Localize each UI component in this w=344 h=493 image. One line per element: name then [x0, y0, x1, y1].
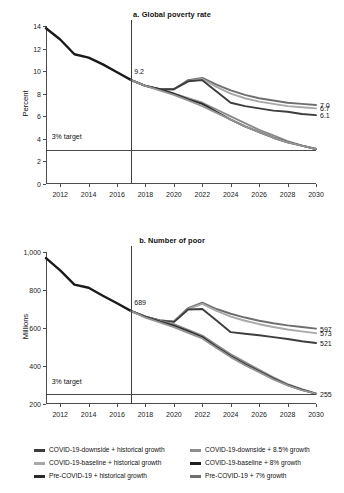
last-actual-value: 689 — [134, 299, 146, 306]
x-tick-label: 2026 — [251, 411, 267, 418]
x-tick-label: 2028 — [280, 191, 296, 198]
y-tick-label: 1,000 — [23, 249, 41, 256]
x-tick-label: 2018 — [138, 191, 154, 198]
chart-panel-global-poverty-rate: a. Global poverty rate Percent 024681012… — [0, 0, 344, 222]
y-tick-mark — [43, 328, 46, 329]
y-tick-mark — [43, 71, 46, 72]
legend-item[interactable]: Pre-COVID-19 + historical growth — [34, 470, 189, 483]
legend-color-swatch-icon — [190, 462, 201, 464]
legend-item[interactable]: COVID-19-baseline + 8% growth — [190, 457, 344, 470]
x-tick-mark — [259, 184, 260, 187]
x-tick-mark — [174, 184, 175, 187]
x-tick-mark — [316, 404, 317, 407]
y-tick-label: 4 — [37, 135, 41, 142]
x-tick-mark — [174, 404, 175, 407]
legend-item-label: COVID-19-downside + historical growth — [49, 447, 165, 454]
y-tick-label: 600 — [29, 325, 41, 332]
chart-legend: COVID-19-downside + historical growthCOV… — [0, 444, 344, 490]
y-tick-mark — [43, 404, 46, 405]
target-reference-line — [46, 394, 316, 395]
x-tick-label: 2024 — [223, 411, 239, 418]
legend-item-label: Pre-COVID-19 + historical growth — [49, 473, 147, 480]
figure-container: a. Global poverty rate Percent 024681012… — [0, 0, 344, 493]
y-tick-label: 200 — [29, 401, 41, 408]
x-tick-mark — [145, 184, 146, 187]
x-tick-mark — [288, 404, 289, 407]
y-tick-label: 2 — [37, 158, 41, 165]
forecast-divider-line — [131, 20, 132, 184]
forecast-divider-line — [131, 246, 132, 404]
x-tick-label: 2026 — [251, 191, 267, 198]
y-tick-label: 14 — [33, 23, 41, 30]
chart-a-series-layer — [46, 26, 316, 184]
x-tick-mark — [117, 404, 118, 407]
y-tick-mark — [43, 184, 46, 185]
series-end-label: 573 — [320, 330, 332, 337]
target-label: 3% target — [52, 378, 82, 385]
y-tick-label: 8 — [37, 90, 41, 97]
legend-color-swatch-icon — [190, 475, 201, 477]
x-tick-mark — [60, 184, 61, 187]
x-tick-label: 2022 — [195, 191, 211, 198]
y-tick-mark — [43, 366, 46, 367]
series-line — [46, 258, 131, 311]
y-tick-mark — [43, 252, 46, 253]
y-tick-label: 6 — [37, 113, 41, 120]
y-tick-mark — [43, 116, 46, 117]
x-tick-mark — [202, 184, 203, 187]
y-tick-label: 400 — [29, 363, 41, 370]
x-tick-mark — [60, 404, 61, 407]
y-tick-label: 0 — [37, 181, 41, 188]
x-tick-label: 2012 — [52, 411, 68, 418]
x-tick-mark — [202, 404, 203, 407]
legend-column-right: COVID-19-downside + 8.5% growthCOVID-19-… — [190, 444, 344, 483]
x-tick-label: 2030 — [308, 411, 324, 418]
legend-color-swatch-icon — [34, 449, 45, 451]
legend-item[interactable]: COVID-19-baseline + historical growth — [34, 457, 189, 470]
x-tick-label: 2024 — [223, 191, 239, 198]
x-tick-label: 2022 — [195, 411, 211, 418]
legend-item[interactable]: COVID-19-downside + 8.5% growth — [190, 444, 344, 457]
x-tick-mark — [259, 404, 260, 407]
legend-item[interactable]: COVID-19-downside + historical growth — [34, 444, 189, 457]
legend-color-swatch-icon — [34, 462, 45, 464]
series-line — [46, 28, 131, 80]
x-tick-label: 2012 — [52, 191, 68, 198]
x-tick-mark — [89, 404, 90, 407]
legend-item-label: COVID-19-downside + 8.5% growth — [205, 447, 310, 454]
chart-b-plot-area: Millions 2004006008001,00020122014201620… — [46, 252, 316, 404]
y-tick-mark — [43, 161, 46, 162]
x-tick-label: 2030 — [308, 191, 324, 198]
series-end-label: 255 — [320, 390, 332, 397]
y-tick-mark — [43, 290, 46, 291]
x-tick-mark — [316, 184, 317, 187]
series-line — [131, 304, 316, 333]
legend-item-label: COVID-19-baseline + historical growth — [49, 460, 161, 467]
y-tick-mark — [43, 26, 46, 27]
chart-b-series-layer — [46, 252, 316, 404]
legend-column-left: COVID-19-downside + historical growthCOV… — [34, 444, 189, 483]
x-tick-mark — [89, 184, 90, 187]
series-line — [131, 79, 316, 108]
legend-color-swatch-icon — [34, 475, 45, 477]
chart-b-title: b. Number of poor — [0, 236, 344, 245]
x-tick-label: 2028 — [280, 411, 296, 418]
x-tick-label: 2016 — [109, 191, 125, 198]
x-tick-label: 2014 — [81, 191, 97, 198]
series-line — [131, 311, 316, 393]
x-tick-mark — [288, 184, 289, 187]
series-line — [131, 80, 316, 115]
series-line — [131, 78, 316, 105]
legend-item[interactable]: Pre-COVID-19 + 7% growth — [190, 470, 344, 483]
chart-a-plot-area: Percent 02468101214201220142016201820202… — [46, 26, 316, 184]
target-label: 3% target — [52, 133, 82, 140]
x-tick-mark — [231, 404, 232, 407]
x-tick-label: 2016 — [109, 411, 125, 418]
x-tick-label: 2014 — [81, 411, 97, 418]
series-line — [131, 303, 316, 329]
chart-b-y-axis-label: Millions — [21, 297, 30, 357]
y-tick-label: 10 — [33, 68, 41, 75]
target-reference-line — [46, 150, 316, 151]
x-tick-mark — [145, 404, 146, 407]
y-tick-mark — [43, 139, 46, 140]
